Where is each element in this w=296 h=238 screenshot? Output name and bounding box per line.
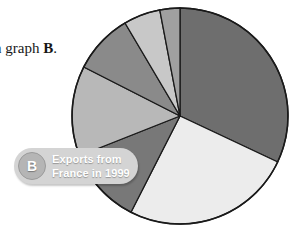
pie-chart [0,0,296,238]
badge-title-line-2: France in 1999 [52,166,138,180]
figure-container: n graph B. B Exports from France in 1999 [0,0,296,238]
pie-slice-group [72,8,288,224]
badge-title-line-1: Exports from [52,152,138,166]
badge-title: Exports from France in 1999 [46,152,138,180]
chart-label-badge: B Exports from France in 1999 [14,148,138,184]
badge-letter-icon: B [18,152,46,180]
